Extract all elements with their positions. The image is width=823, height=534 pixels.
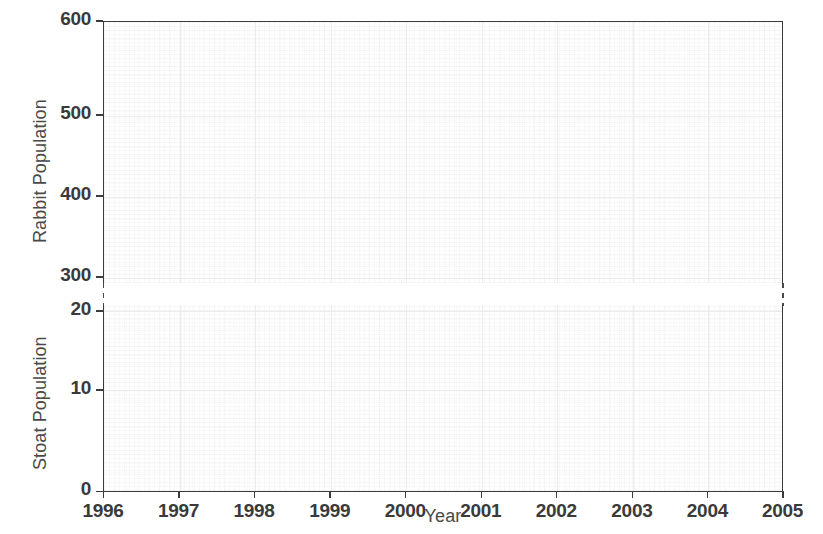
rabbit-population-series: [104, 22, 784, 284]
axis-break-right: [782, 283, 784, 306]
yaxis-title-rabbit: Rabbit Population: [30, 99, 51, 243]
xtick-1997: [178, 491, 179, 498]
rabbit-plot-area: [103, 21, 783, 283]
xtick-2001: [481, 491, 482, 498]
ytick-rabbit-300: [96, 276, 103, 277]
ytick-rabbit-400: [96, 195, 103, 196]
stoat-plot-area: [103, 305, 783, 492]
xtick-label-1997: 1997: [136, 500, 222, 522]
xtick-1998: [254, 491, 255, 498]
ytick-rabbit-500: [96, 114, 103, 115]
xtick-label-2005: 2005: [740, 500, 823, 522]
xtick-2000: [405, 491, 406, 498]
xtick-2004: [707, 491, 708, 498]
ytick-label-stoat-20: 20: [36, 298, 91, 320]
stoat-population-series: [104, 305, 784, 492]
xtick-1996: [103, 491, 104, 498]
axis-break-left: [103, 283, 105, 306]
xtick-label-1998: 1998: [211, 500, 297, 522]
xaxis-title: Year: [343, 506, 543, 527]
xtick-1999: [329, 491, 330, 498]
ytick-stoat-10: [96, 389, 103, 390]
yaxis-title-stoat: Stoat Population: [30, 336, 51, 470]
ytick-rabbit-600: [96, 20, 103, 21]
ytick-label-rabbit-600: 600: [36, 8, 91, 30]
xtick-2002: [556, 491, 557, 498]
xtick-label-2004: 2004: [664, 500, 750, 522]
xtick-2003: [632, 491, 633, 498]
xtick-label-2003: 2003: [589, 500, 675, 522]
xtick-2005: [782, 491, 783, 498]
ytick-label-rabbit-300: 300: [36, 264, 91, 286]
chart-figure: 600 500 400 300 Rabbit Population 20 10 …: [0, 0, 823, 534]
ytick-stoat-20: [96, 310, 103, 311]
xtick-label-1996: 1996: [60, 500, 146, 522]
ytick-label-stoat-0: 0: [36, 478, 91, 500]
